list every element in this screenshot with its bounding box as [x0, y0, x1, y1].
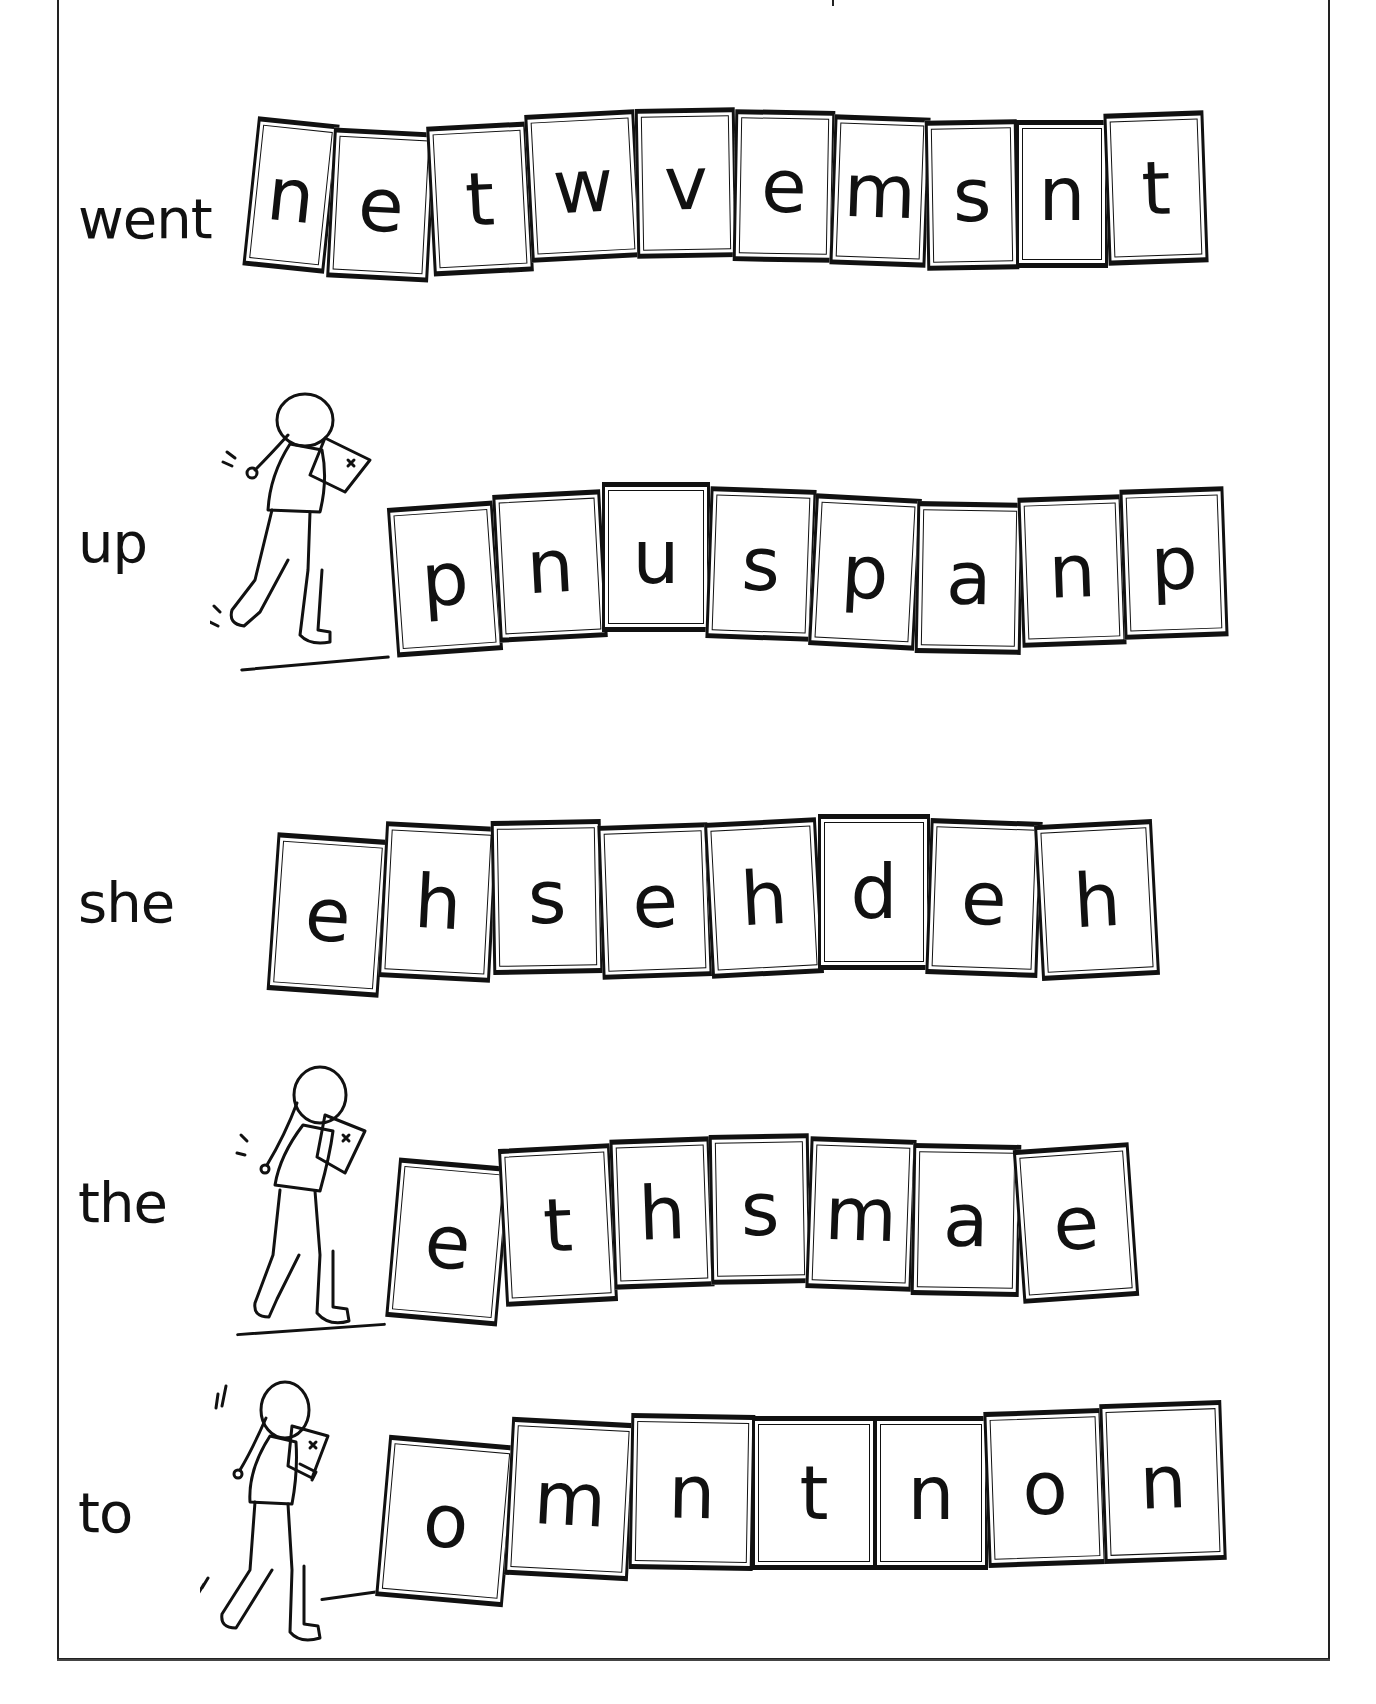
letter-card[interactable]: e — [326, 127, 436, 282]
letter: s — [527, 854, 567, 941]
letter: n — [524, 522, 575, 610]
letter-card[interactable]: t — [426, 121, 534, 276]
letter: e — [760, 143, 807, 230]
girl-with-map-icon — [210, 380, 390, 670]
girl-with-map-icon — [225, 1055, 395, 1345]
letter: o — [420, 1476, 473, 1566]
letter-card[interactable]: p — [808, 493, 922, 650]
letter-card[interactable]: u — [602, 482, 710, 632]
letter-card[interactable]: p — [387, 500, 503, 657]
letter: n — [1138, 1438, 1188, 1526]
letter-card[interactable]: o — [375, 1435, 517, 1608]
letter-cards: n e t w v e m s n t — [250, 112, 1204, 280]
letter: e — [422, 1197, 475, 1287]
letter-card[interactable]: n — [629, 1413, 756, 1571]
letter-cards: e h s e h d e h — [272, 820, 1154, 994]
letter-card[interactable]: e — [925, 818, 1042, 978]
letter: n — [263, 150, 319, 240]
letter: m — [532, 1454, 608, 1544]
letter-card[interactable]: n — [874, 1416, 988, 1570]
target-word: went — [78, 186, 212, 251]
letter: n — [908, 1450, 955, 1536]
letter: n — [668, 1449, 716, 1536]
letter-card[interactable]: s — [705, 486, 816, 642]
target-word: she — [78, 870, 174, 935]
letter: h — [1071, 856, 1122, 944]
top-tick-mark — [832, 0, 834, 6]
letter-card[interactable]: n — [492, 489, 608, 642]
letter-card[interactable]: e — [1013, 1142, 1139, 1304]
letter-card[interactable]: h — [704, 817, 824, 979]
letter-card[interactable]: s — [491, 819, 604, 975]
letter: p — [839, 528, 890, 616]
letter: e — [1050, 1179, 1101, 1268]
letter: e — [960, 854, 1009, 942]
letter: n — [1047, 527, 1097, 615]
letter-card[interactable]: n — [1099, 1400, 1227, 1564]
letter: t — [1140, 145, 1172, 232]
letter: m — [842, 147, 917, 235]
letter: h — [738, 854, 789, 942]
letter: o — [1021, 1444, 1069, 1532]
letter: m — [823, 1170, 898, 1258]
letter-card[interactable]: n — [242, 116, 339, 274]
letter-card[interactable]: t — [752, 1416, 876, 1570]
letter: a — [946, 535, 993, 622]
letter-card[interactable]: e — [385, 1157, 511, 1326]
letter-card[interactable]: h — [1034, 819, 1160, 981]
letter-cards: e t h s m a e — [392, 1140, 1132, 1322]
letter-card[interactable]: a — [915, 501, 1024, 655]
letter-card[interactable]: m — [829, 114, 930, 267]
letter-card[interactable]: s — [925, 119, 1020, 271]
letter-card[interactable]: v — [635, 107, 738, 259]
letter: s — [740, 1166, 780, 1253]
letter-card[interactable]: s — [709, 1133, 812, 1285]
letter-card[interactable]: h — [378, 821, 498, 983]
letter-card[interactable]: h — [609, 1136, 714, 1289]
letter-card[interactable]: e — [267, 832, 390, 997]
letter: e — [356, 161, 406, 249]
letter-card[interactable]: e — [733, 109, 836, 263]
letter: s — [952, 152, 992, 239]
target-word: to — [78, 1480, 132, 1545]
letter: v — [663, 140, 708, 227]
letter: n — [1039, 151, 1086, 237]
letter: t — [463, 155, 496, 242]
letter: d — [851, 849, 898, 935]
letter-card[interactable]: m — [504, 1417, 636, 1581]
letter: s — [740, 520, 782, 607]
letter-card[interactable]: m — [805, 1136, 916, 1292]
letter: e — [302, 871, 353, 960]
letter: p — [1149, 519, 1199, 607]
target-word: up — [78, 510, 147, 575]
letter-cards: p n u s p a n p — [392, 488, 1224, 654]
letter-cards: o m n t n o n — [382, 1416, 1222, 1602]
letter: u — [633, 514, 680, 600]
letter-card[interactable]: n — [1017, 494, 1126, 648]
letter-card[interactable]: t — [498, 1143, 618, 1307]
letter-card[interactable]: n — [1016, 120, 1108, 268]
letter: h — [637, 1169, 687, 1257]
letter: w — [551, 141, 616, 230]
letter-card[interactable]: t — [1103, 110, 1208, 265]
target-word: the — [78, 1170, 167, 1235]
letter-card[interactable]: e — [597, 822, 712, 980]
letter: a — [943, 1177, 990, 1264]
letter: p — [419, 534, 472, 623]
letter-card[interactable]: p — [1119, 486, 1228, 640]
letter-card[interactable]: d — [818, 814, 930, 970]
letter: t — [799, 1450, 828, 1536]
letter-card[interactable]: w — [524, 109, 642, 263]
letter-card[interactable]: o — [983, 1408, 1106, 1568]
letter-card[interactable]: a — [911, 1143, 1022, 1297]
letter: t — [541, 1181, 574, 1268]
letter: e — [631, 857, 680, 945]
letter: h — [412, 858, 463, 946]
girl-with-map-icon — [200, 1370, 370, 1660]
